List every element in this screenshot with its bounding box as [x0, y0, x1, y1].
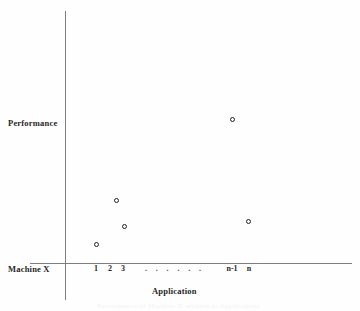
y-axis-label: Performance [8, 118, 57, 128]
data-point-n [246, 219, 251, 224]
figure-caption: Performance of Machine X relative to App… [97, 302, 260, 310]
x-tick-label-n: n [247, 264, 251, 273]
x-tick-label-n-minus-1: n-1 [226, 264, 237, 273]
y-axis-line [65, 11, 66, 300]
x-tick-label-2: 2 [108, 264, 112, 273]
x-axis-label: Application [152, 286, 197, 296]
data-point-n-1 [230, 117, 235, 122]
x-tick-label-ellipsis: . . . . . . [145, 264, 204, 273]
data-point-2 [114, 198, 119, 203]
scatter-plot-figure: Performance Machine X Application 1 2 3 … [0, 0, 360, 311]
x-tick-label-3: 3 [121, 264, 125, 273]
machine-label: Machine X [8, 264, 50, 274]
data-point-1 [94, 242, 99, 247]
x-tick-label-1: 1 [94, 264, 98, 273]
data-point-3 [122, 224, 127, 229]
